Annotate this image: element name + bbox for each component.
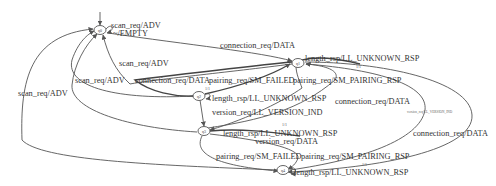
label-q2-q3: version_req/LL_VERSION_IND bbox=[212, 108, 323, 117]
state-q1: q1 bbox=[292, 59, 304, 68]
label-q0-self-empty: ~/EMPTY bbox=[113, 29, 148, 38]
state-q2-label: q2 bbox=[197, 94, 201, 99]
label-q3-q4-failed: pairing_req/SM_FAILED bbox=[216, 152, 302, 161]
label-q1-self: length_rsp/LL_UNKNOWN_RSP bbox=[305, 54, 420, 63]
mark-q1: 1/1 bbox=[356, 64, 361, 69]
label-q4-q1: connection_req/DATA bbox=[413, 129, 488, 138]
label-q2-self: length_rsp/LL_UNKNOWN_RSP bbox=[212, 94, 327, 103]
label-q3-self-version: version_req/DATA bbox=[255, 137, 318, 146]
state-q1-label: q1 bbox=[296, 61, 300, 66]
label-q1-q4-outer: version_req/LL_VERSION_IND bbox=[407, 110, 453, 114]
state-diagram: q0 q1 q2 q3 q4 scan_req/ADV ~/EMPTY conn… bbox=[0, 0, 496, 186]
label-q1-q2: pairing_req/SM_FAILED bbox=[209, 76, 295, 85]
mark-q4: 1/1 bbox=[362, 162, 367, 167]
label-q4-q0: scan_req/ADV bbox=[18, 89, 68, 98]
mark-q2: 1/1 bbox=[205, 86, 210, 91]
label-q2-q1: connection_req/DATA bbox=[135, 76, 210, 85]
state-q2: q2 bbox=[193, 92, 205, 101]
label-q4-self: length_rsp/LL_UNKNOWN_RSP bbox=[294, 168, 409, 177]
state-q4-label: q4 bbox=[281, 168, 285, 173]
label-q0-q1: connection_req/DATA bbox=[220, 41, 295, 50]
label-q3-q4-pairing: pairing_req/SM_PAIRING_RSP bbox=[301, 152, 410, 161]
label-q1-q3: pairing_req/SM_PAIRING_RSP bbox=[293, 76, 402, 85]
state-q4: q4 bbox=[277, 166, 289, 175]
label-q1-q0: scan_req/ADV bbox=[119, 59, 169, 68]
edge-q2-q3 bbox=[200, 100, 204, 126]
label-q2-q0: scan_req/ADV bbox=[75, 76, 125, 85]
label-q3-q1: connection_req/DATA bbox=[335, 97, 410, 106]
mark-q3: 1/1 bbox=[282, 122, 287, 127]
state-q3-label: q3 bbox=[202, 129, 206, 134]
state-q3: q3 bbox=[198, 127, 210, 136]
state-q0-label: q0 bbox=[98, 28, 102, 33]
state-q0: q0 bbox=[94, 26, 106, 35]
